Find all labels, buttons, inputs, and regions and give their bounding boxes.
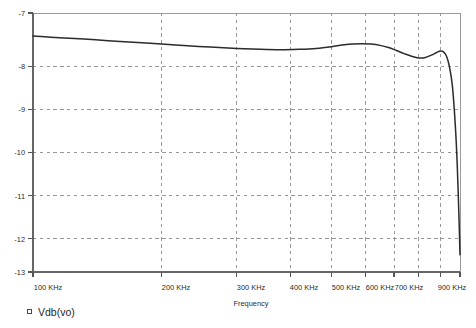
x-tick-label: 900 KHz xyxy=(438,283,467,292)
axes-lines xyxy=(33,13,460,272)
y-tick-label: -7 xyxy=(18,9,25,18)
x-tick-label: 700 KHz xyxy=(395,283,424,292)
x-tick-marks xyxy=(33,272,460,277)
x-tick-label: 400 KHz xyxy=(290,283,319,292)
line-chart: -7 -8 -9 -10 -11 -12 -13 100 KHz 200 KHz… xyxy=(0,0,476,328)
x-tick-label: 500 KHz xyxy=(332,283,361,292)
horizontal-gridlines xyxy=(33,66,460,239)
y-tick-label: -12 xyxy=(14,235,25,244)
y-tick-label: -10 xyxy=(14,148,25,157)
x-tick-label: 300 KHz xyxy=(237,283,266,292)
x-tick-label: 100 KHz xyxy=(34,283,63,292)
plot-frame xyxy=(33,13,460,272)
legend-square-open-marker-icon xyxy=(28,310,32,314)
chart-container: -7 -8 -9 -10 -11 -12 -13 100 KHz 200 KHz… xyxy=(0,0,476,328)
y-axis-tick-labels: -7 -8 -9 -10 -11 -12 -13 xyxy=(14,9,25,277)
y-tick-label: -13 xyxy=(14,268,25,277)
y-tick-marks xyxy=(28,13,33,272)
x-tick-label: 600 KHz xyxy=(366,283,395,292)
y-tick-label: -8 xyxy=(18,62,25,71)
legend-label[interactable]: Vdb(vo) xyxy=(38,306,75,318)
data-series-line xyxy=(33,36,460,255)
x-tick-label: 200 KHz xyxy=(162,283,191,292)
legend: Vdb(vo) xyxy=(28,306,75,318)
x-axis-title: Frequency xyxy=(234,299,269,308)
x-axis-tick-labels: 100 KHz 200 KHz 300 KHz 400 KHz 500 KHz … xyxy=(34,283,467,292)
y-tick-label: -11 xyxy=(15,192,25,201)
y-tick-label: -9 xyxy=(18,105,25,114)
